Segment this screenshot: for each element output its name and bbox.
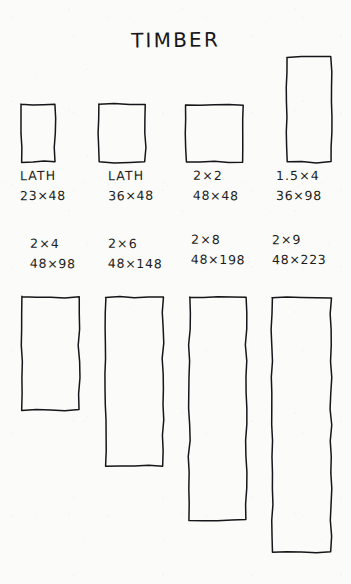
- timber-metric-size: 36×48: [108, 189, 154, 202]
- timber-metric-size: 48×148: [108, 257, 163, 270]
- timber-nominal-size: 2×2: [193, 170, 239, 183]
- timber-reference-sheet: TIMBER LATH23×48LATH36×482×248×481.5×436…: [0, 0, 351, 584]
- timber-label-2x6: 2×648×148: [108, 238, 163, 271]
- timber-nominal-size: 2×8: [191, 234, 246, 247]
- timber-nominal-size: 2×6: [108, 238, 163, 251]
- timber-rect-lath: [98, 103, 146, 162]
- timber-nominal-size: LATH: [20, 170, 66, 183]
- timber-rect-2x6: [105, 297, 164, 467]
- timber-nominal-size: 2×9: [272, 234, 327, 247]
- timber-metric-size: 23×48: [20, 189, 66, 202]
- timber-metric-size: 48×98: [30, 257, 76, 270]
- timber-label-2x8: 2×848×198: [191, 234, 246, 267]
- timber-label-2x4: 2×448×98: [30, 238, 76, 271]
- timber-label-2x9: 2×948×223: [272, 234, 327, 266]
- timber-label-lath: LATH23×48: [20, 170, 66, 202]
- timber-rect-2x8: [188, 297, 247, 521]
- timber-rect-2x2: [185, 105, 243, 163]
- timber-metric-size: 48×198: [191, 253, 246, 266]
- timber-rect-2x4: [21, 296, 80, 411]
- timber-label-lath: LATH36×48: [108, 170, 154, 202]
- timber-label-1.5x4: 1.5×436×98: [276, 170, 322, 202]
- timber-cross-section-drawing: [0, 0, 351, 584]
- timber-rect-lath: [21, 104, 56, 162]
- timber-nominal-size: 1.5×4: [276, 170, 322, 183]
- timber-metric-size: 36×98: [276, 189, 322, 202]
- timber-label-2x2: 2×248×48: [193, 170, 239, 203]
- timber-rect-1.5x4: [286, 56, 332, 163]
- timber-metric-size: 48×223: [272, 253, 327, 266]
- timber-rect-2x9: [271, 297, 332, 553]
- timber-nominal-size: LATH: [108, 170, 154, 183]
- timber-metric-size: 48×48: [193, 189, 239, 202]
- timber-nominal-size: 2×4: [30, 238, 76, 251]
